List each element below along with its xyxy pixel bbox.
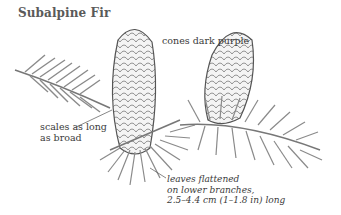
figure-canvas: Subalpine Fir cones dark purple scales a… [0, 0, 341, 215]
annotation-leaves-line-1: leaves flattened [167, 174, 285, 185]
upper-left-branch [15, 55, 110, 112]
annotation-scales: scales as long as broad [40, 121, 107, 143]
annotation-leaves-line-3: 2.5–4.4 cm (1–1.8 in) long [167, 195, 285, 206]
left-cone [112, 29, 155, 154]
lower-right-branch [180, 96, 322, 168]
annotation-scales-line-1: scales as long [40, 121, 107, 132]
annotation-leaves: leaves flattened on lower branches, 2.5–… [167, 174, 285, 206]
annotation-scales-line-2: as broad [40, 132, 107, 143]
right-cone [205, 33, 254, 124]
annotation-cones: cones dark purple [162, 35, 249, 46]
annotation-leaves-line-2: on lower branches, [167, 185, 285, 196]
figure-title: Subalpine Fir [18, 6, 110, 20]
